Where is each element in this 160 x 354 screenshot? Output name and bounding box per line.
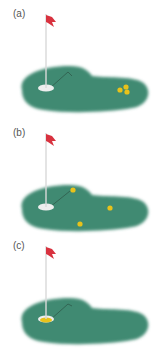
golf-ball-icon xyxy=(124,89,129,94)
panel-a: (a) xyxy=(0,8,160,123)
golf-ball-icon xyxy=(123,84,128,89)
panel-c: (c) xyxy=(0,240,160,354)
golf-green-illustration xyxy=(0,127,160,242)
flag-icon xyxy=(46,15,56,27)
panel-b: (b) xyxy=(0,127,160,242)
golf-ball-icon xyxy=(107,205,112,210)
flag-icon xyxy=(46,247,56,259)
flag-icon xyxy=(46,134,56,146)
golf-ball-icon xyxy=(70,187,75,192)
golf-green-illustration xyxy=(0,8,160,123)
clipped-caption: · · · · · xyxy=(56,0,126,2)
golf-ball-icon xyxy=(117,87,122,92)
golf-ball-icon xyxy=(77,221,82,226)
golf-green-illustration xyxy=(0,240,160,354)
